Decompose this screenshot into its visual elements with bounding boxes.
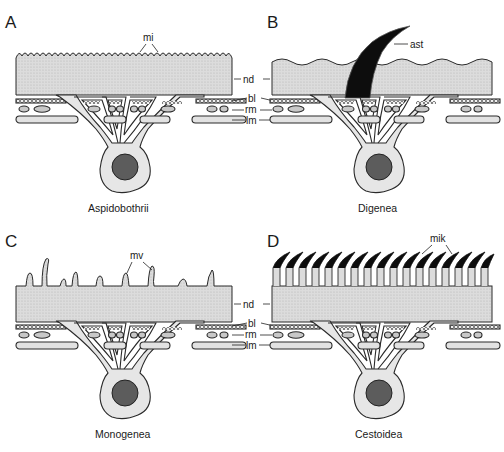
tegument-figure: A mi Aspidobothrii nd bl rm lm B ast Dig…	[0, 0, 504, 452]
panel-d: D	[267, 232, 500, 440]
tegument-a	[16, 53, 232, 95]
label-rm-lower: rm	[245, 329, 257, 340]
panel-b: B ast Digenea	[267, 13, 500, 214]
label-ast: ast	[410, 39, 424, 50]
caption-b: Digenea	[358, 202, 397, 214]
label-rm-upper: rm	[245, 104, 257, 115]
caption-c: Monogenea	[95, 428, 151, 440]
panel-letter-b: B	[267, 13, 278, 32]
panel-c: C mv Monogenea	[5, 232, 246, 440]
caption-a: Aspidobothrii	[88, 202, 149, 214]
label-mv: mv	[130, 250, 143, 261]
tegument-c	[16, 259, 232, 322]
microtriches	[273, 252, 494, 286]
label-bl-upper: bl	[248, 93, 256, 104]
caption-d: Cestoidea	[355, 428, 402, 440]
label-bl-lower: bl	[248, 318, 256, 329]
panel-letter-d: D	[267, 232, 279, 251]
label-lm-upper: lm	[246, 115, 257, 126]
panel-a: A mi Aspidobothrii	[5, 13, 246, 214]
panel-letter-c: C	[5, 232, 17, 251]
label-mi: mi	[143, 32, 154, 43]
label-nd-upper: nd	[243, 74, 254, 85]
label-mik: mik	[430, 233, 447, 244]
label-nd-lower: nd	[243, 299, 254, 310]
tegument-b	[272, 59, 492, 95]
label-lm-lower: lm	[246, 340, 257, 351]
panel-letter-a: A	[5, 13, 17, 32]
